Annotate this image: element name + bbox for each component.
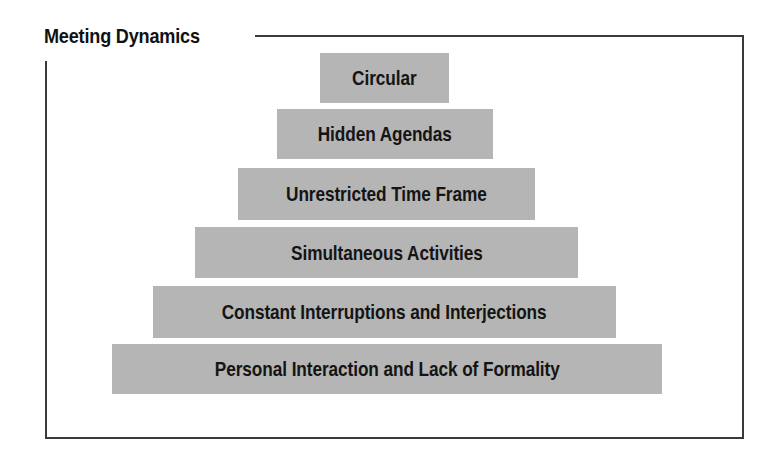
pyramid-tier-6: Personal Interaction and Lack of Formali… [112, 344, 662, 394]
frame-top-border [255, 35, 744, 37]
frame-bottom-border [45, 437, 744, 439]
tier-label: Constant Interruptions and Interjections [222, 300, 547, 324]
pyramid-tier-5: Constant Interruptions and Interjections [153, 286, 616, 338]
tier-label: Circular [352, 66, 416, 90]
frame-left-border [45, 61, 47, 439]
pyramid-tier-1: Circular [320, 53, 449, 103]
pyramid-tier-2: Hidden Agendas [277, 109, 493, 159]
tier-label: Simultaneous Activities [291, 241, 483, 265]
pyramid-tier-4: Simultaneous Activities [195, 227, 578, 278]
diagram-title: Meeting Dynamics [44, 23, 200, 49]
frame-right-border [742, 35, 744, 439]
tier-label: Hidden Agendas [318, 122, 452, 146]
tier-label: Unrestricted Time Frame [286, 182, 487, 206]
tier-label: Personal Interaction and Lack of Formali… [215, 357, 560, 381]
pyramid-tier-3: Unrestricted Time Frame [238, 168, 535, 220]
